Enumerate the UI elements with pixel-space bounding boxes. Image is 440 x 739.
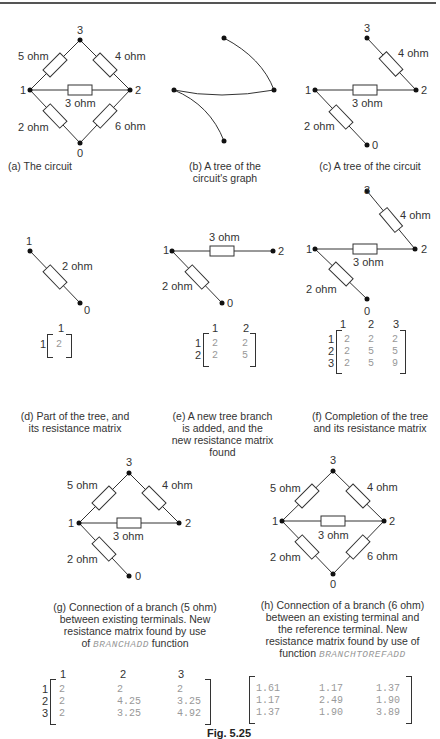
svg-text:2 ohm: 2 ohm xyxy=(270,551,301,563)
matrix-row-header: 1 xyxy=(328,333,334,345)
bracket-left xyxy=(249,676,255,724)
tree-graph-b xyxy=(174,38,274,141)
svg-text:4 ohm: 4 ohm xyxy=(367,481,398,493)
matrix-cell: 2 xyxy=(392,334,398,345)
svg-text:3: 3 xyxy=(330,454,336,466)
function-name: BRANCHADD xyxy=(93,639,149,650)
matrix-cell: 2 xyxy=(177,684,183,695)
matrix-cell: 1.37 xyxy=(376,683,400,694)
matrix-cell: 1.17 xyxy=(256,695,280,706)
matrix-row-header: 1 xyxy=(40,338,46,350)
matrix-cell: 2 xyxy=(344,358,350,369)
svg-text:6 ohm: 6 ohm xyxy=(115,120,146,132)
matrix-cell: 5 xyxy=(368,346,374,357)
svg-text:0: 0 xyxy=(227,297,233,309)
svg-text:1: 1 xyxy=(163,244,169,256)
matrix-cell: 1.90 xyxy=(319,707,343,718)
svg-text:3 ohm: 3 ohm xyxy=(353,256,384,268)
bracket-left xyxy=(50,679,56,725)
matrix-row-header: 3 xyxy=(328,357,334,369)
matrix-row-header: 1 xyxy=(195,337,201,349)
caption-b-line1: (b) A tree of the xyxy=(165,160,285,172)
caption-b: (b) A tree of the circuit's graph xyxy=(165,160,285,184)
matrix-cell: 1.37 xyxy=(256,707,280,718)
matrix-cell: 1.17 xyxy=(319,683,343,694)
svg-text:0: 0 xyxy=(330,578,336,590)
svg-text:4 ohm: 4 ohm xyxy=(115,50,146,62)
caption-g-line2: between existing terminals. New xyxy=(40,613,230,625)
svg-text:2: 2 xyxy=(135,84,141,96)
svg-text:6 ohm: 6 ohm xyxy=(367,550,398,562)
matrix-cell: 2 xyxy=(368,334,374,345)
matrix-cell: 4.25 xyxy=(117,696,141,707)
matrix-cell: 5 xyxy=(242,350,248,361)
svg-text:5 ohm: 5 ohm xyxy=(67,479,98,491)
matrix-col-header: 3 xyxy=(178,668,184,680)
svg-text:3 ohm: 3 ohm xyxy=(209,231,240,243)
svg-text:2 ohm: 2 ohm xyxy=(304,120,335,132)
matrix-cell: 2 xyxy=(59,696,65,707)
caption-h-line3: the reference terminal. New xyxy=(245,623,440,635)
caption-h-line1: (h) Connection of a branch (6 ohm) xyxy=(245,599,440,611)
bracket-left xyxy=(203,333,209,367)
svg-text:3 ohm: 3 ohm xyxy=(318,529,349,541)
caption-e-line3: new resistance matrix xyxy=(160,434,285,446)
matrix-cell: 1.90 xyxy=(376,695,400,706)
svg-text:1: 1 xyxy=(20,84,26,96)
caption-h-line5: function BRANCHTOREFADD xyxy=(245,647,440,661)
caption-text: function xyxy=(279,647,316,659)
bracket-left xyxy=(336,330,342,374)
svg-text:0: 0 xyxy=(77,147,83,159)
svg-text:2: 2 xyxy=(421,243,427,255)
caption-d-line2: its resistance matrix xyxy=(10,422,140,434)
caption-f: (f) Completion of the tree and its resis… xyxy=(300,410,440,434)
matrix-row-header: 2 xyxy=(328,345,334,357)
caption-d: (d) Part of the tree, and its resistance… xyxy=(10,410,140,434)
svg-text:5 ohm: 5 ohm xyxy=(18,50,49,62)
bracket-right xyxy=(205,679,211,725)
matrix-cell: 3.25 xyxy=(177,696,201,707)
function-name: BRANCHTOREFADD xyxy=(319,649,406,660)
caption-f-line1: (f) Completion of the tree xyxy=(300,410,440,422)
caption-c: (c) A tree of the circuit xyxy=(300,160,440,172)
matrix-col-header: 3 xyxy=(393,318,399,330)
caption-h-line4: resistance matrix found by use of xyxy=(245,635,440,647)
matrix-col-header: 1 xyxy=(60,668,66,680)
matrix-row-header: 3 xyxy=(42,707,48,719)
caption-h-line2: between an existing terminal and xyxy=(245,611,440,623)
svg-text:2 ohm: 2 ohm xyxy=(306,283,337,295)
svg-text:5 ohm: 5 ohm xyxy=(270,482,301,494)
matrix-cell: 2 xyxy=(117,684,123,695)
matrix-cell: 2 xyxy=(344,346,350,357)
matrix-col-header: 2 xyxy=(120,668,126,680)
caption-a: (a) The circuit xyxy=(8,160,128,172)
matrix-col-header: 1 xyxy=(58,322,64,334)
matrix-row-header: 2 xyxy=(195,349,201,361)
svg-text:2 ohm: 2 ohm xyxy=(162,280,193,292)
matrix-cell: 3.89 xyxy=(376,707,400,718)
matrix-cell: 2 xyxy=(212,338,218,349)
matrix-col-header: 1 xyxy=(212,322,218,334)
bracket-right xyxy=(66,334,72,358)
matrix-row-header: 2 xyxy=(42,695,48,707)
caption-e-line4: found xyxy=(160,446,285,458)
matrix-cell: 2.49 xyxy=(319,695,343,706)
matrix-cell: 5 xyxy=(368,358,374,369)
caption-g-line4: of BRANCHADD function xyxy=(40,637,230,651)
svg-text:1: 1 xyxy=(305,84,311,96)
caption-g-line3: resistance matrix found by use xyxy=(40,625,230,637)
matrix-cell: 1.61 xyxy=(256,683,280,694)
svg-text:2 ohm: 2 ohm xyxy=(18,121,49,133)
svg-text:4 ohm: 4 ohm xyxy=(398,47,429,59)
bracket-right xyxy=(406,676,412,724)
svg-text:4 ohm: 4 ohm xyxy=(400,209,431,221)
svg-text:3 ohm: 3 ohm xyxy=(352,97,383,109)
matrix-col-header: 2 xyxy=(368,318,374,330)
caption-h: (h) Connection of a branch (6 ohm) betwe… xyxy=(245,599,440,661)
svg-text:0: 0 xyxy=(84,304,90,316)
svg-text:3: 3 xyxy=(126,456,132,468)
caption-text: function xyxy=(152,637,189,649)
matrix-cell: 2 xyxy=(56,339,62,350)
bracket-right xyxy=(250,333,256,367)
matrix-cell: 3.25 xyxy=(117,708,141,719)
